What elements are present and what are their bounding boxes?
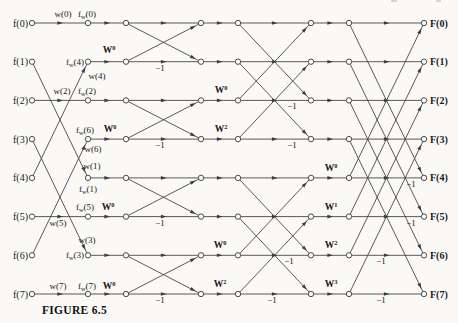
label-fw0: fw(0) [78, 9, 96, 20]
arrowhead [327, 99, 333, 103]
arrowhead [272, 254, 278, 258]
arrowhead [417, 244, 421, 250]
arrowhead [190, 287, 196, 291]
node [421, 291, 426, 296]
arrowhead [217, 176, 223, 180]
arrowhead [217, 60, 223, 64]
node [29, 98, 34, 103]
node [85, 175, 90, 180]
label-tw-s2-r3: W2 [215, 123, 228, 134]
node [235, 291, 240, 296]
arrowhead [272, 99, 278, 103]
node [85, 214, 90, 219]
label-input-0: f(0) [13, 18, 28, 30]
node [198, 253, 203, 258]
arrowhead [217, 21, 223, 25]
label-input-2: f(2) [13, 95, 28, 107]
label-fw1: fw(1) [79, 184, 97, 195]
label-tw-s1-r7: W0 [103, 280, 116, 291]
label-tw-s1-r5: W0 [102, 201, 115, 212]
label-w6: w(6) [85, 144, 102, 154]
arrowhead [272, 21, 278, 25]
arrowhead [190, 55, 196, 59]
label-fw6: fw(6) [76, 125, 94, 136]
scanned-figure-page: w(0)fw(0)w(2)fw(2)W0fw(4)w(4)fw(6)W0w(6)… [0, 0, 458, 323]
node [85, 136, 90, 141]
node [198, 175, 203, 180]
label-input-1: f(1) [13, 56, 28, 68]
label-m1-s1-r3: −1 [155, 140, 165, 150]
label-w2: w(2) [54, 86, 71, 96]
node [235, 59, 240, 64]
label-m1-s1-r1: −1 [155, 63, 165, 73]
arrowhead [190, 181, 196, 185]
arrowhead [327, 176, 333, 180]
arrowhead [417, 167, 421, 173]
label-fw5: fw(5) [76, 202, 94, 213]
figure-caption: FIGURE 6.5 [42, 304, 107, 316]
node [198, 98, 203, 103]
arrowhead [190, 210, 196, 214]
label-m1-s1-r7: −1 [155, 295, 165, 305]
arrowhead [190, 258, 196, 262]
arrowhead [57, 21, 63, 25]
arrowhead [217, 137, 223, 141]
node [308, 291, 313, 296]
label-tw-s3-r4: W0 [325, 162, 338, 173]
node [346, 136, 351, 141]
node [29, 175, 34, 180]
arrowhead [104, 176, 110, 180]
label-w1: w(1) [84, 161, 101, 171]
arrowhead [417, 67, 421, 73]
label-output-4: F(4) [430, 172, 448, 184]
node [29, 291, 34, 296]
node [346, 98, 351, 103]
arrowhead [327, 60, 333, 64]
node [198, 291, 203, 296]
node [308, 98, 313, 103]
label-output-0: F(0) [430, 18, 448, 30]
node [85, 59, 90, 64]
arrowhead [417, 205, 421, 211]
edges [32, 23, 424, 294]
label-w4: w(4) [89, 71, 106, 81]
arrowhead [104, 292, 110, 296]
node [123, 20, 128, 25]
arrowhead [57, 292, 63, 296]
label-m1-s2-r6: −1 [284, 256, 294, 266]
label-tw-s1-r1: W0 [103, 44, 116, 55]
node [85, 98, 90, 103]
fft-flow-diagram: w(0)fw(0)w(2)fw(2)W0fw(4)w(4)fw(6)W0w(6)… [0, 0, 458, 323]
label-m1-s3-r4: −1 [406, 179, 416, 189]
node [198, 59, 203, 64]
label-fw7: fw(7) [78, 281, 96, 292]
arrowhead [217, 292, 223, 296]
arrowhead [190, 26, 196, 30]
node [235, 20, 240, 25]
arrowhead [272, 137, 278, 141]
node [346, 20, 351, 25]
node [235, 98, 240, 103]
label-output-7: F(7) [430, 289, 448, 301]
label-output-3: F(3) [430, 134, 448, 146]
node [421, 59, 426, 64]
node [29, 253, 34, 258]
arrowhead [161, 99, 167, 103]
node [308, 59, 313, 64]
node [198, 20, 203, 25]
scan-artifact [391, 0, 397, 2]
label-w7: w(7) [50, 281, 67, 291]
arrowhead [272, 60, 278, 64]
arrowhead [161, 254, 167, 258]
label-tw-s2-r2: W0 [215, 84, 228, 95]
arrowhead [217, 99, 223, 103]
node [29, 59, 34, 64]
label-input-7: f(7) [13, 289, 28, 301]
node [123, 253, 128, 258]
node [29, 214, 34, 219]
node [346, 59, 351, 64]
arrowhead [57, 99, 63, 103]
node [85, 20, 90, 25]
label-fw2: fw(2) [78, 86, 96, 97]
node [421, 136, 426, 141]
